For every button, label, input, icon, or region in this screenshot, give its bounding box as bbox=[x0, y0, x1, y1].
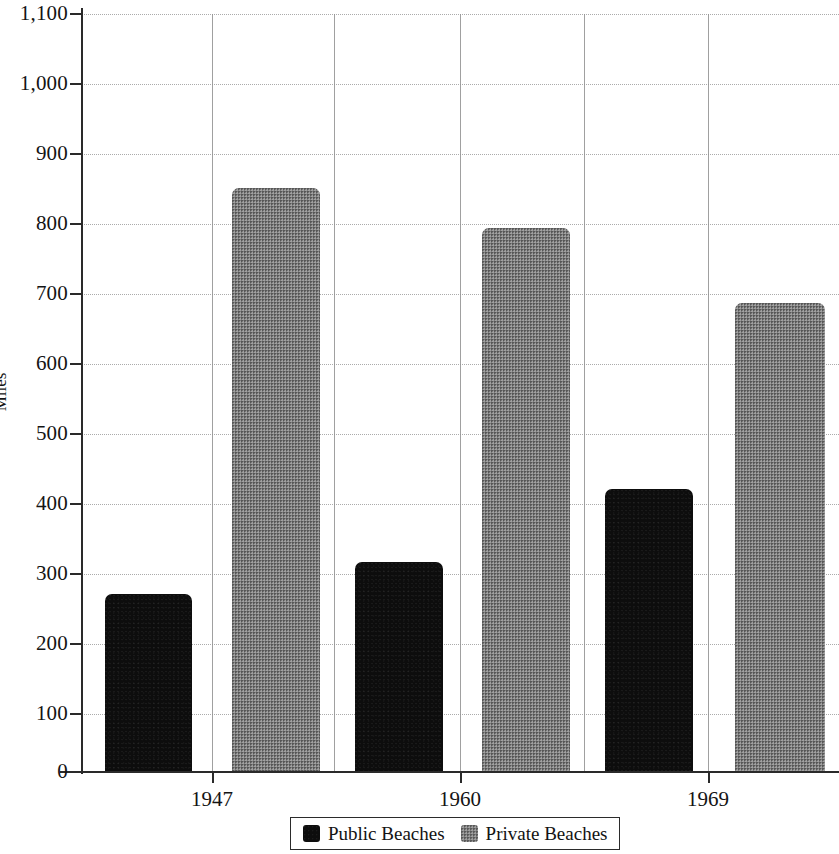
x-tick-1960 bbox=[460, 772, 462, 783]
gridline-x-5 bbox=[708, 14, 709, 772]
y-tick-label-500: 500 bbox=[2, 423, 68, 444]
y-tick-300 bbox=[70, 573, 83, 575]
gridline-x-3 bbox=[460, 14, 461, 772]
bar-public-1969 bbox=[605, 489, 693, 772]
plot-area bbox=[82, 14, 839, 772]
gridline-x-4 bbox=[584, 14, 585, 772]
bar-private-1960 bbox=[482, 228, 570, 772]
legend-item-private: Private Beaches bbox=[461, 824, 608, 843]
y-tick-label-0: 0 bbox=[2, 761, 68, 782]
y-tick-label-400: 400 bbox=[2, 493, 68, 514]
chart-legend: Public Beaches Private Beaches bbox=[290, 817, 620, 850]
y-tick-1000 bbox=[70, 83, 83, 85]
x-tick-label-1947: 1947 bbox=[191, 788, 233, 810]
legend-label-private: Private Beaches bbox=[486, 824, 608, 843]
y-tick-label-1000: 1,000 bbox=[2, 73, 68, 94]
y-tick-labels: 1,100 1,000 900 800 700 600 500 400 300 … bbox=[0, 0, 68, 854]
x-tick-label-1969: 1969 bbox=[687, 788, 729, 810]
y-tick-500 bbox=[70, 433, 83, 435]
x-tick-label-1960: 1960 bbox=[439, 788, 481, 810]
legend-swatch-public-icon bbox=[303, 825, 320, 842]
legend-item-public: Public Beaches bbox=[303, 824, 445, 843]
x-axis-line bbox=[60, 771, 839, 773]
gridline-x-2 bbox=[334, 14, 335, 772]
y-tick-0 bbox=[70, 771, 83, 773]
gridline-x-1 bbox=[212, 14, 213, 772]
legend-label-public: Public Beaches bbox=[328, 824, 445, 843]
y-tick-label-700: 700 bbox=[2, 283, 68, 304]
y-tick-label-1100: 1,100 bbox=[2, 3, 68, 24]
y-tick-100 bbox=[70, 713, 83, 715]
y-tick-800 bbox=[70, 223, 83, 225]
y-tick-label-200: 200 bbox=[2, 633, 68, 654]
y-tick-1100 bbox=[70, 13, 83, 15]
x-tick-1947 bbox=[212, 772, 214, 783]
y-axis-title: Miles bbox=[0, 373, 11, 412]
x-tick-1969 bbox=[708, 772, 710, 783]
bar-chart: 1,100 1,000 900 800 700 600 500 400 300 … bbox=[0, 0, 839, 854]
y-tick-label-300: 300 bbox=[2, 563, 68, 584]
y-axis-line bbox=[81, 8, 83, 774]
y-tick-label-600: 600 bbox=[2, 353, 68, 374]
y-tick-400 bbox=[70, 503, 83, 505]
y-tick-label-100: 100 bbox=[2, 703, 68, 724]
bar-private-1947 bbox=[232, 188, 320, 772]
y-tick-200 bbox=[70, 643, 83, 645]
y-tick-600 bbox=[70, 363, 83, 365]
bar-public-1960 bbox=[355, 562, 443, 772]
y-tick-label-900: 900 bbox=[2, 143, 68, 164]
legend-swatch-private-icon bbox=[461, 825, 478, 842]
y-tick-label-800: 800 bbox=[2, 213, 68, 234]
bar-public-1947 bbox=[105, 594, 192, 772]
y-tick-900 bbox=[70, 153, 83, 155]
y-tick-700 bbox=[70, 293, 83, 295]
bar-private-1969 bbox=[735, 303, 825, 772]
